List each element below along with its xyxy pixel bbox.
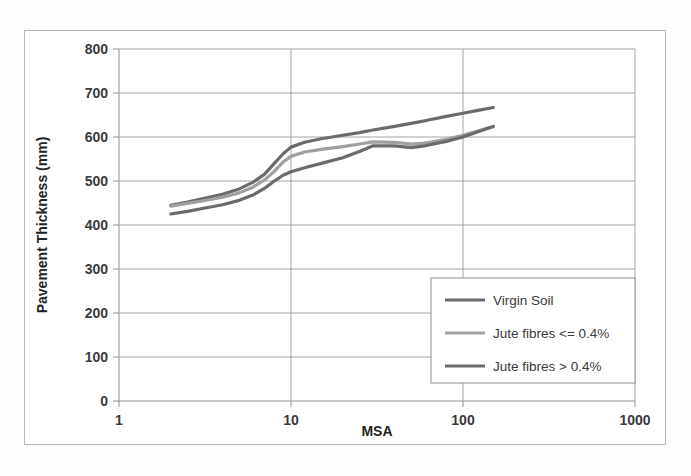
- y-tick-label: 300: [85, 261, 109, 277]
- x-tick-label: 1000: [619, 412, 650, 428]
- x-axis-title: MSA: [361, 423, 392, 439]
- y-tick-label: 0: [100, 393, 108, 409]
- chart-legend: Virgin SoilJute fibres <= 0.4%Jute fibre…: [431, 278, 635, 383]
- y-tick-label: 800: [85, 41, 109, 57]
- x-tick-label: 1: [115, 412, 123, 428]
- x-tick-label: 100: [451, 412, 475, 428]
- pavement-thickness-chart: 0100200300400500600700800 1101001000 MSA…: [25, 31, 665, 444]
- chart-figure: 0100200300400500600700800 1101001000 MSA…: [0, 0, 691, 476]
- y-tick-label: 200: [85, 305, 109, 321]
- y-tick-label: 600: [85, 129, 109, 145]
- y-axis-ticks: 0100200300400500600700800: [85, 41, 119, 409]
- legend-label: Jute fibres <= 0.4%: [493, 326, 609, 341]
- legend-label: Virgin Soil: [493, 293, 554, 308]
- chart-outer-frame: 0100200300400500600700800 1101001000 MSA…: [24, 30, 666, 445]
- y-tick-label: 400: [85, 217, 109, 233]
- legend-label: Jute fibres > 0.4%: [493, 359, 601, 374]
- y-tick-label: 100: [85, 349, 109, 365]
- y-tick-label: 700: [85, 85, 109, 101]
- y-tick-label: 500: [85, 173, 109, 189]
- x-tick-label: 10: [283, 412, 299, 428]
- y-axis-title: Pavement Thickness (mm): [34, 137, 50, 314]
